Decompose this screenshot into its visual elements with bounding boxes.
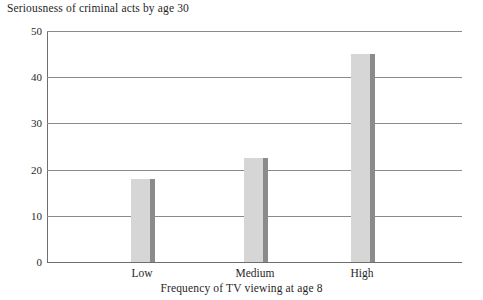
y-axis-tick-label: 20 — [31, 164, 42, 175]
x-axis-tick-label: High — [351, 267, 374, 280]
bar-group — [244, 31, 268, 262]
gridline: 0 — [47, 262, 462, 263]
bar-shadow-cap — [150, 176, 155, 179]
bar-shadow-cap — [370, 51, 375, 54]
x-axis-tick-label: Low — [131, 267, 152, 280]
chart-title: Seriousness of criminal acts by age 30 — [7, 1, 189, 15]
bar — [351, 54, 370, 262]
bar — [131, 179, 150, 262]
bar-shadow — [263, 158, 268, 262]
x-axis-tick-label: Medium — [236, 267, 275, 280]
plot-area: 01020304050 LowMediumHigh — [47, 31, 462, 262]
bar-shadow — [150, 179, 155, 262]
bar-shadow — [370, 54, 375, 262]
bar-group — [351, 31, 375, 262]
bar-shadow-cap — [263, 155, 268, 158]
bar-chart-figure: Seriousness of criminal acts by age 30 0… — [0, 0, 483, 300]
y-axis-tick-label: 40 — [31, 72, 42, 83]
y-axis-line — [47, 31, 48, 263]
x-axis-title: Frequency of TV viewing at age 8 — [0, 281, 483, 295]
y-axis-tick-label: 0 — [37, 257, 43, 268]
bar — [244, 158, 263, 262]
y-axis-tick-label: 10 — [31, 210, 42, 221]
y-axis-tick-label: 50 — [31, 26, 42, 37]
bar-group — [131, 31, 155, 262]
y-axis-tick-label: 30 — [31, 118, 42, 129]
